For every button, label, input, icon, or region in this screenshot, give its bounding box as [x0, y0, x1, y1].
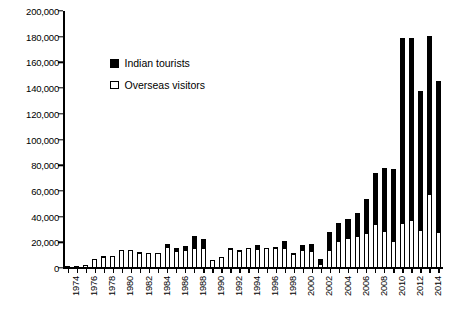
bar-segment-overseas-visitors	[264, 248, 269, 268]
x-axis-tick-mark	[294, 268, 295, 273]
filled-square-icon	[110, 59, 119, 68]
y-axis-tick-mark	[58, 113, 63, 114]
bar-segment-indian-tourists	[345, 219, 350, 237]
bar-segment-indian-tourists	[336, 223, 341, 241]
x-axis-tick-label: 2014	[433, 276, 443, 296]
bar-2006	[355, 213, 360, 269]
bar-segment-overseas-visitors	[183, 250, 188, 268]
x-axis-tick-mark	[248, 268, 249, 273]
bar-2010	[391, 169, 396, 268]
x-axis-tick-label: 1996	[270, 276, 280, 296]
y-axis-tick-label: 40,000	[31, 211, 59, 222]
y-axis-tick-mark	[58, 87, 63, 88]
bar-2015	[436, 81, 441, 268]
x-axis-tick-label: 1976	[89, 276, 99, 296]
x-axis-tick-mark	[86, 268, 87, 273]
x-axis-tick-label: 1992	[234, 276, 244, 296]
x-axis-tick-mark	[203, 268, 204, 273]
x-axis-tick-label: 1980	[125, 276, 135, 296]
bar-segment-overseas-visitors	[174, 251, 179, 268]
legend-item-indian-tourists: Indian tourists	[110, 58, 205, 69]
bar-1990	[210, 260, 215, 268]
bar-1985	[165, 244, 170, 268]
chart-legend: Indian tourists Overseas visitors	[110, 58, 205, 101]
x-axis-tick-mark	[393, 268, 394, 273]
bar-2014	[427, 36, 432, 268]
bar-segment-overseas-visitors	[382, 231, 387, 268]
x-axis-tick-mark	[411, 268, 412, 273]
bar-segment-indian-tourists	[400, 38, 405, 223]
x-axis-tick-mark	[429, 268, 430, 273]
x-axis-tick-mark	[267, 268, 268, 273]
x-axis-tick-mark	[140, 268, 141, 273]
x-axis-tick-mark	[194, 268, 195, 273]
x-axis-tick-mark	[375, 268, 376, 273]
bar-segment-indian-tourists	[327, 232, 332, 250]
x-axis-tick-mark	[131, 268, 132, 273]
bar-segment-overseas-visitors	[427, 194, 432, 268]
bar-segment-overseas-visitors	[273, 248, 278, 268]
y-axis-tick-mark	[58, 267, 63, 268]
x-axis-tick-mark	[303, 268, 304, 273]
bar-segment-overseas-visitors	[155, 253, 160, 268]
x-axis-tick-mark	[285, 268, 286, 273]
bar-segment-overseas-visitors	[345, 238, 350, 268]
x-axis-tick-mark	[357, 268, 358, 273]
x-axis-tick-label: 1982	[144, 276, 154, 296]
bar-segment-overseas-visitors	[364, 233, 369, 268]
x-axis-tick-mark	[366, 268, 367, 273]
bar-1989	[201, 239, 206, 268]
x-axis-tick-mark	[113, 268, 114, 273]
y-axis-tick-label: 180,000	[26, 31, 59, 42]
bar-1978	[101, 256, 106, 268]
x-axis-tick-label: 2008	[379, 276, 389, 296]
x-axis-tick-label: 1998	[288, 276, 298, 296]
bar-segment-indian-tourists	[192, 236, 197, 248]
x-axis-tick-mark	[420, 268, 421, 273]
bar-segment-overseas-visitors	[92, 259, 97, 268]
x-axis-tick-label: 2010	[397, 276, 407, 296]
bar-2008	[373, 173, 378, 268]
bar-segment-overseas-visitors	[418, 230, 423, 268]
bar-2000	[300, 245, 305, 268]
bar-segment-overseas-visitors	[373, 224, 378, 268]
bar-segment-overseas-visitors	[237, 251, 242, 268]
x-axis-tick-label: 1974	[71, 276, 81, 296]
x-axis-tick-mark	[438, 268, 439, 273]
legend-label-overseas-visitors: Overseas visitors	[125, 80, 206, 91]
x-axis-tick-label: 1984	[162, 276, 172, 296]
bar-segment-overseas-visitors	[137, 253, 142, 268]
bar-2003	[327, 232, 332, 268]
bar-segment-overseas-visitors	[255, 249, 260, 268]
bar-1987	[183, 246, 188, 268]
legend-label-indian-tourists: Indian tourists	[125, 58, 190, 69]
y-axis-tick-label: 120,000	[26, 108, 59, 119]
bar-1995	[255, 245, 260, 268]
bar-segment-overseas-visitors	[165, 247, 170, 268]
x-axis-tick-mark	[212, 268, 213, 273]
bar-segment-overseas-visitors	[119, 250, 124, 268]
y-axis-tick-label: 80,000	[31, 160, 59, 171]
x-axis-tick-mark	[258, 268, 259, 273]
x-axis-tick-mark	[176, 268, 177, 273]
bar-segment-overseas-visitors	[210, 260, 215, 268]
x-axis-tick-mark	[104, 268, 105, 273]
bar-2005	[345, 219, 350, 268]
x-axis-tick-mark	[221, 268, 222, 273]
bar-segment-overseas-visitors	[201, 248, 206, 268]
x-axis-tick-mark	[158, 268, 159, 273]
x-axis-tick-label: 2006	[361, 276, 371, 296]
x-axis-tick-mark	[330, 268, 331, 273]
bar-segment-overseas-visitors	[192, 248, 197, 268]
bar-segment-indian-tourists	[436, 81, 441, 232]
bar-segment-overseas-visitors	[146, 253, 151, 268]
x-axis-tick-label: 1986	[180, 276, 190, 296]
bar-segment-indian-tourists	[355, 213, 360, 237]
bar-2009	[382, 168, 387, 268]
chart-figure: 020,00040,00060,00080,000100,000120,0001…	[0, 0, 455, 312]
y-axis-tick-label: 100,000	[26, 134, 59, 145]
bar-2013	[418, 91, 423, 268]
x-axis-tick-mark	[167, 268, 168, 273]
x-axis-tick-mark	[68, 268, 69, 273]
bar-segment-overseas-visitors	[400, 223, 405, 268]
